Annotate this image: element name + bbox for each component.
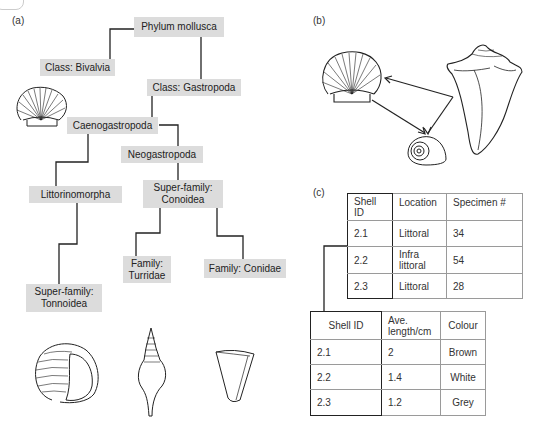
turrid-shell-icon xyxy=(136,326,170,418)
table2-header-shell-id: Shell ID xyxy=(311,312,382,340)
table2-header-length: Ave. length/cm xyxy=(382,312,441,340)
node-class-bivalvia: Class: Bivalvia xyxy=(40,59,115,76)
node-phylum-mollusca: Phylum mollusca xyxy=(134,17,224,37)
table1-header-shell-id: Shell ID xyxy=(348,194,393,221)
scallop-shell-icon xyxy=(13,86,69,130)
node-family-turridae: Family: Turridae xyxy=(123,256,171,283)
scallop-shell-b-icon xyxy=(318,50,386,108)
cone-shell-icon xyxy=(210,348,258,404)
shell-size-colour-table: Shell ID Ave. length/cm Colour 2.1 2 Bro… xyxy=(310,311,486,416)
table1-header-location: Location xyxy=(393,194,447,221)
table-row: 2.3 1.2 Grey xyxy=(311,390,486,416)
table-row: 2.1 Littoral 34 xyxy=(348,221,523,247)
node-littorinomorpha: Littorinomorpha xyxy=(29,186,122,203)
node-class-gastropoda: Class: Gastropoda xyxy=(147,79,241,96)
table-row: 2.2 Infra littoral 54 xyxy=(348,247,523,274)
node-caenogastropoda: Caenogastropoda xyxy=(67,117,158,134)
table-row: 2.1 2 Brown xyxy=(311,340,486,365)
node-superfamily-conoidea: Super-family: Conoidea xyxy=(143,180,223,208)
shell-location-table: Shell ID Location Specimen # 2.1 Littora… xyxy=(347,193,523,299)
table2-header-colour: Colour xyxy=(441,312,486,340)
table1-header-specimen: Specimen # xyxy=(447,194,523,221)
snail-shell-icon xyxy=(404,133,448,167)
conch-shell-icon xyxy=(444,40,526,158)
node-superfamily-tonnoidea: Super-family: Tonnoidea xyxy=(26,284,102,312)
tun-shell-icon xyxy=(32,340,104,406)
node-neogastropoda: Neogastropoda xyxy=(121,146,203,163)
table-row: 2.3 Littoral 28 xyxy=(348,274,523,299)
node-family-conidae: Family: Conidae xyxy=(204,259,286,278)
table-row: 2.2 1.4 White xyxy=(311,365,486,390)
